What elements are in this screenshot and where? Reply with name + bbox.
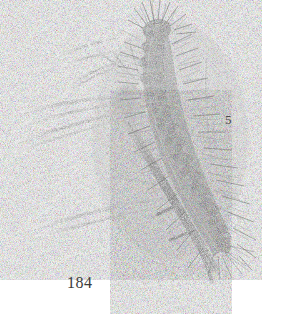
figure-number-label: 5 [225,113,232,126]
plate-number-label: 184 [67,275,93,291]
tonal-wash [92,20,248,260]
caterpillar-on-pine-illustration [0,0,283,314]
plate-illustration: 5 184 [0,0,283,314]
